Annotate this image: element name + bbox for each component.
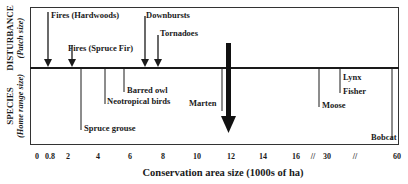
svg-text:Fires (Spruce Fir): Fires (Spruce Fir) xyxy=(68,43,133,53)
species-barred-owl: Barred owl xyxy=(124,68,168,95)
svg-text:16: 16 xyxy=(292,152,300,161)
svg-text:Downbursts: Downbursts xyxy=(146,10,191,20)
svg-text:DISTURBANCE: DISTURBANCE xyxy=(5,5,15,71)
svg-text:14: 14 xyxy=(259,152,267,161)
x-axis-ticks: 0 0.8 2 4 6 8 10 12 14 16 // 30 // 60 xyxy=(35,152,401,161)
svg-text:0: 0 xyxy=(35,152,39,161)
svg-text:8: 8 xyxy=(161,152,165,161)
diagram-figure: DISTURBANCE (Patch size) SPECIES (Home r… xyxy=(0,0,408,184)
svg-text:6: 6 xyxy=(128,152,132,161)
threshold-arrow-icon xyxy=(221,43,236,133)
species-moose: Moose xyxy=(319,68,346,110)
svg-text://: // xyxy=(310,152,316,161)
svg-text:(Home range size): (Home range size) xyxy=(15,74,25,138)
svg-text:60: 60 xyxy=(393,152,401,161)
y-label-species: SPECIES (Home range size) xyxy=(5,74,25,138)
svg-text:Marten: Marten xyxy=(189,98,217,108)
arrowhead-icon xyxy=(44,59,52,67)
arrowhead-icon xyxy=(141,59,149,67)
svg-text:Spruce grouse: Spruce grouse xyxy=(84,123,136,133)
svg-text:12: 12 xyxy=(227,152,235,161)
species-marten: Marten xyxy=(189,68,222,111)
svg-text:SPECIES: SPECIES xyxy=(5,87,15,125)
svg-text:Neotropical birds: Neotropical birds xyxy=(107,96,171,106)
y-label-disturbance: DISTURBANCE (Patch size) xyxy=(5,5,25,71)
svg-text:30: 30 xyxy=(323,152,331,161)
svg-text:0.8: 0.8 xyxy=(45,152,55,161)
svg-text:10: 10 xyxy=(193,152,201,161)
svg-text:Fires (Hardwoods): Fires (Hardwoods) xyxy=(51,10,119,20)
species-lynx-fisher: Lynx Fisher xyxy=(340,68,366,96)
svg-text:4: 4 xyxy=(96,152,100,161)
disturbance-fires-hardwoods: Fires (Hardwoods) xyxy=(44,10,119,67)
svg-text:Fisher: Fisher xyxy=(343,86,366,96)
svg-text:Barred owl: Barred owl xyxy=(127,85,168,95)
species-bobcat: Bobcat xyxy=(371,68,397,142)
arrowhead-icon xyxy=(154,59,162,67)
svg-text:Bobcat: Bobcat xyxy=(371,132,397,142)
svg-text:(Patch size): (Patch size) xyxy=(15,17,25,58)
svg-text:Tornadoes: Tornadoes xyxy=(160,28,199,38)
disturbance-downbursts: Downbursts xyxy=(141,10,191,67)
disturbance-tornadoes: Tornadoes xyxy=(154,28,199,67)
x-axis-title: Conservation area size (1000s of ha) xyxy=(142,167,304,179)
svg-text:Lynx: Lynx xyxy=(343,72,362,82)
svg-text:2: 2 xyxy=(66,152,70,161)
svg-text:Moose: Moose xyxy=(322,100,346,110)
disturbance-fires-spruce-fir: Fires (Spruce Fir) xyxy=(68,43,133,67)
svg-text://: // xyxy=(352,152,358,161)
arrowhead-icon xyxy=(68,59,76,67)
